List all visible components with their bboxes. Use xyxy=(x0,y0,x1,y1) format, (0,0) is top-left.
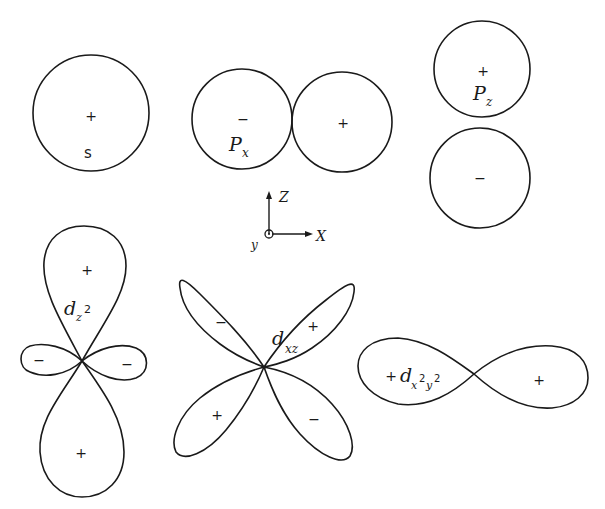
z-arrow-icon xyxy=(266,191,272,199)
dx2y2-sign-left: + xyxy=(385,368,397,384)
z-axis-label: Z xyxy=(278,189,289,205)
px-label-subscript: x xyxy=(242,146,249,160)
dz2-sign-bottom: + xyxy=(75,445,87,461)
s-orbital: + s xyxy=(33,55,149,171)
dz2-sign-top: + xyxy=(81,262,93,278)
dx2y2-label-sub-x: x xyxy=(411,379,418,392)
dz2-ring-left xyxy=(21,345,82,376)
dz2-lobe-top xyxy=(44,226,126,361)
y-axis-label: y xyxy=(250,238,258,252)
dxz-label: d xyxy=(272,327,284,349)
dxz-sign-bottom-left: + xyxy=(211,407,223,423)
px-sign-left: − xyxy=(237,111,249,127)
dxz-orbital: − + + − d xz xyxy=(174,280,354,460)
dx2y2-label-sup-y: 2 xyxy=(434,373,440,384)
dz2-label: d xyxy=(64,297,76,319)
pz-orbital: + − P z xyxy=(430,21,530,228)
px-label: P xyxy=(228,133,243,155)
origin-dot xyxy=(268,233,270,235)
dz2-orbital: + − − + d z 2 xyxy=(21,226,147,497)
dz2-sign-left: − xyxy=(33,352,45,368)
s-label: s xyxy=(84,144,92,162)
dz2-label-superscript: 2 xyxy=(84,303,91,316)
px-orbital: − + P x xyxy=(192,69,392,172)
coordinate-axes: Z X y xyxy=(250,189,327,252)
dx2y2-lobe-left xyxy=(358,338,474,405)
dx2y2-orbital: + + d x 2 y 2 xyxy=(358,338,588,408)
px-sign-right: + xyxy=(337,115,349,131)
dx2y2-label-sup-x: 2 xyxy=(419,373,425,384)
s-sign: + xyxy=(85,108,97,124)
dxz-sign-bottom-right: − xyxy=(308,411,320,427)
x-arrow-icon xyxy=(305,231,313,237)
dxz-label-subscript: xz xyxy=(285,342,299,356)
pz-sign-top: + xyxy=(477,63,489,79)
dx2y2-label-sub-y: y xyxy=(425,379,433,392)
dz2-sign-right: − xyxy=(121,356,133,372)
dx2y2-sign-right: + xyxy=(533,372,545,388)
dxz-sign-top-left: − xyxy=(215,314,227,330)
dz2-label-subscript: z xyxy=(75,311,82,324)
orbital-diagram: + s − + P x + − P z Z X y xyxy=(0,0,605,509)
dx2y2-lobe-right xyxy=(474,346,588,408)
dxz-sign-top-right: + xyxy=(307,318,319,334)
x-axis-label: X xyxy=(315,228,327,244)
pz-sign-bottom: − xyxy=(474,170,486,186)
pz-label-subscript: z xyxy=(485,95,493,109)
dz2-lobe-bottom xyxy=(40,361,124,497)
pz-label: P xyxy=(472,82,487,104)
